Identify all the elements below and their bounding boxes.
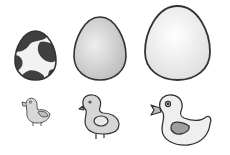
duck-icon [151, 95, 211, 145]
small-chick-icon [22, 98, 50, 126]
growth-illustration [0, 0, 230, 155]
spotted-egg-icon [14, 30, 57, 82]
medium-egg-icon [74, 17, 126, 80]
large-egg-icon [145, 6, 210, 80]
medium-chick-icon [79, 95, 119, 139]
